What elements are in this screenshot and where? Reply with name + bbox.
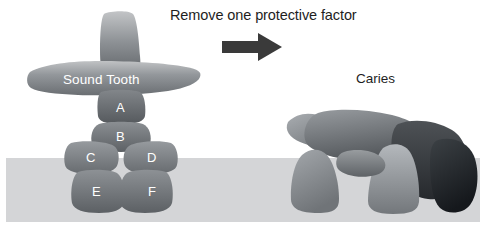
right-collapsed-group <box>287 110 478 214</box>
diagram-canvas: Remove one protective factor Caries Soun… <box>0 0 488 233</box>
block-D <box>124 141 178 174</box>
block-E <box>71 170 124 213</box>
tooth-stability-diagram <box>0 0 488 233</box>
block-C <box>64 141 118 174</box>
right-arrow-icon <box>222 33 282 61</box>
block-F <box>119 170 172 213</box>
caries-label: Caries <box>356 71 395 86</box>
block-A <box>97 90 145 124</box>
header-caption: Remove one protective factor <box>170 7 357 23</box>
collapsed-block-6 <box>430 139 477 213</box>
